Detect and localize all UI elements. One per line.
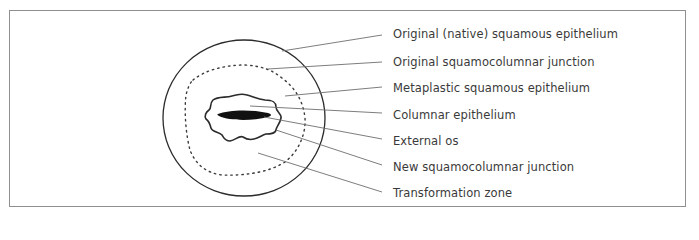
leader-original-scj [268,62,382,69]
label-new-scj: New squamocolumnar junction [393,160,574,174]
label-original-squamous-epithelium: Original (native) squamous epithelium [393,27,618,41]
label-original-scj: Original squamocolumnar junction [393,55,595,69]
leader-original-squamous-epithelium [282,35,382,51]
leader-metaplastic-squamous-epithelium [285,87,382,96]
leader-new-scj [276,130,382,165]
label-transformation-zone: Transformation zone [393,186,512,200]
label-external-os: External os [393,134,459,148]
label-columnar-epithelium: Columnar epithelium [393,108,516,122]
label-metaplastic-squamous-epithelium: Metaplastic squamous epithelium [393,81,590,95]
